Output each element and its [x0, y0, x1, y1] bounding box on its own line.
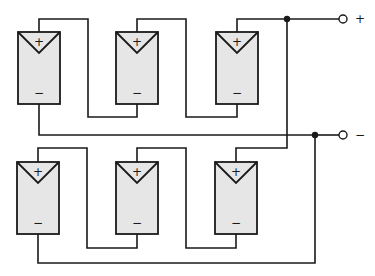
negative-sign: − — [33, 216, 43, 230]
pv-module: + − — [216, 32, 258, 104]
positive-sign: + — [132, 165, 142, 179]
pv-module: + − — [215, 162, 257, 234]
positive-sign: + — [232, 35, 242, 49]
negative-sign: − — [34, 86, 44, 100]
positive-sign: + — [34, 35, 44, 49]
positive-junction-dot — [284, 16, 290, 22]
positive-terminal — [339, 15, 347, 23]
positive-sign: + — [231, 165, 241, 179]
positive-sign: + — [132, 35, 142, 49]
pv-module: + − — [18, 32, 60, 104]
string-2-negative-return-wire — [38, 135, 315, 263]
negative-sign: − — [231, 216, 241, 230]
string-1-wiring — [39, 19, 315, 135]
solar-array-diagram: + − + − + − + − + − + − + − — [0, 0, 375, 276]
negative-sign: − — [132, 216, 142, 230]
positive-sign: + — [33, 165, 43, 179]
negative-junction-dot — [312, 132, 318, 138]
string-1-positive-out-wire — [237, 19, 287, 32]
negative-terminal-label: − — [355, 128, 365, 142]
negative-sign: − — [232, 86, 242, 100]
negative-terminal — [339, 131, 347, 139]
pv-module: + − — [116, 32, 158, 104]
negative-sign: − — [132, 86, 142, 100]
positive-terminal-label: + — [355, 12, 365, 26]
pv-module: + − — [116, 162, 158, 234]
pv-module: + − — [17, 162, 59, 234]
string-1-negative-return-wire — [39, 104, 315, 135]
string-2-wiring — [38, 19, 315, 263]
